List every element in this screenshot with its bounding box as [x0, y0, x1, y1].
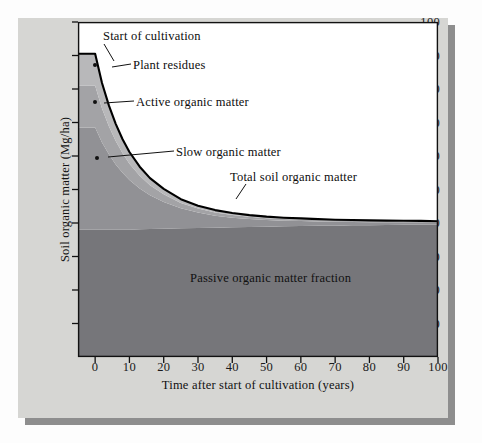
annotation-active-organic-matter: Active organic matter	[136, 95, 249, 110]
chart-svg	[78, 22, 438, 357]
leader-plant-residues-dot	[93, 63, 97, 67]
x-tick-label: 100	[428, 360, 448, 375]
annotation-passive-organic-matter-fraction: Passive organic matter fraction	[190, 271, 351, 286]
plot-wrapper: Soil organic matter (Mg/ha) 102030405060…	[60, 22, 440, 382]
annotation-start-of-cultivation: Start of cultivation	[103, 29, 201, 44]
x-tick-label: 10	[123, 360, 136, 375]
x-tick-label: 60	[294, 360, 307, 375]
plot-area: Start of cultivation Plant residues Acti…	[78, 22, 438, 357]
x-axis-title: Time after start of cultivation (years)	[78, 378, 438, 393]
x-tick-label: 50	[260, 360, 273, 375]
annotation-plant-residues: Plant residues	[133, 58, 206, 73]
x-tick-label: 80	[363, 360, 376, 375]
annotation-total-soil-organic-matter: Total soil organic matter	[230, 170, 357, 185]
x-tick-label: 70	[329, 360, 342, 375]
x-tick-label: 40	[226, 360, 239, 375]
x-axis-ticklabels: 0102030405060708090100	[78, 360, 438, 376]
leader-active-organic-matter-dot	[93, 100, 97, 104]
leader-slow-organic-matter-dot	[95, 156, 99, 160]
x-tick-label: 20	[157, 360, 170, 375]
annotation-slow-organic-matter: Slow organic matter	[176, 145, 281, 160]
x-tick-label: 0	[92, 360, 99, 375]
x-tick-label: 90	[397, 360, 410, 375]
area-series-0	[78, 225, 438, 357]
x-tick-label: 30	[191, 360, 204, 375]
figure-root: Soil organic matter (Mg/ha) 102030405060…	[0, 0, 482, 443]
